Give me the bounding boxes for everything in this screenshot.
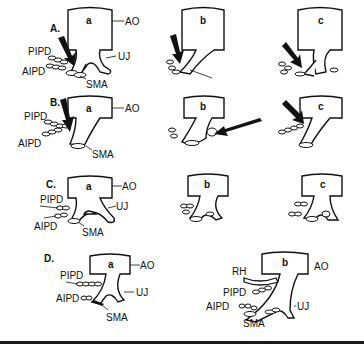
- row-c: C. a AO UJ PIPD AIPD SMA: [34, 174, 342, 238]
- panel-a-b: b: [167, 8, 225, 79]
- label-uj: UJ: [136, 287, 148, 298]
- aipd-vessel: [42, 128, 62, 136]
- label-sma: SMA: [82, 227, 104, 238]
- label-ao: AO: [125, 103, 140, 114]
- panel-id: b: [200, 101, 206, 112]
- pipd-vessel: [253, 286, 272, 294]
- anatomy-diagram: A. a AO UJ PIPD AIPD SMA: [0, 0, 364, 350]
- leader-line: [44, 216, 56, 218]
- side-vessel: [279, 124, 304, 134]
- label-pipd: PIPD: [40, 194, 63, 205]
- panel-id: c: [318, 101, 324, 112]
- row-b: B. a AO PIPD AIPD SMA b: [18, 96, 342, 160]
- label-uj: UJ: [116, 201, 128, 212]
- label-sma: SMA: [86, 79, 108, 90]
- sma-vessel: [71, 144, 85, 149]
- panel-b-b: b: [169, 96, 263, 146]
- panel-id: a: [108, 259, 114, 270]
- sma-vessel: [190, 217, 202, 222]
- label-aipd: AIPD: [22, 66, 45, 77]
- panel-id: b: [204, 179, 210, 190]
- label-aipd: AIPD: [34, 221, 57, 232]
- panel-d-a: a AO UJ PIPD AIPD SMA: [56, 254, 155, 323]
- leader-line: [40, 206, 58, 208]
- panel-a-a: a AO UJ PIPD AIPD SMA: [22, 8, 140, 91]
- row-a: A. a AO UJ PIPD AIPD SMA: [22, 8, 342, 91]
- label-aipd: AIPD: [206, 301, 229, 312]
- bottom-rule: [0, 341, 364, 344]
- label-rh: RH: [232, 266, 246, 277]
- panel-b-a: a AO PIPD AIPD SMA: [18, 96, 140, 160]
- leader-line: [102, 305, 108, 310]
- aipd-vessel: [81, 296, 92, 300]
- row-label-b: B.: [50, 97, 60, 108]
- label-uj: UJ: [297, 301, 309, 312]
- aipd-vessel: [46, 64, 66, 70]
- sma-vessel: [185, 141, 199, 146]
- label-aipd: AIPD: [56, 293, 79, 304]
- panel-id: a: [86, 181, 92, 192]
- label-pipd: PIPD: [60, 270, 83, 281]
- sma-vessel: [306, 217, 318, 222]
- pipd-vessel: [77, 282, 102, 286]
- leader-line: [106, 56, 116, 58]
- panel-id: a: [86, 103, 92, 114]
- panel-id: c: [320, 179, 326, 190]
- sma-vessel: [68, 219, 80, 224]
- row-label-a: A.: [50, 23, 60, 34]
- leader-line: [66, 282, 78, 284]
- panel-a-c: c: [279, 8, 343, 77]
- panel-c-c: c: [289, 174, 343, 222]
- row-label-d: D.: [44, 253, 54, 264]
- panel-c-b: b: [181, 174, 229, 222]
- panel-b-c: c: [279, 96, 343, 148]
- label-ao: AO: [122, 181, 137, 192]
- panel-id: b: [282, 257, 288, 268]
- row-d: D. a AO UJ PIPD AIPD SMA: [44, 252, 329, 329]
- aipd-vessel: [239, 304, 257, 310]
- vessel: [304, 60, 316, 76]
- leader-line: [108, 206, 116, 208]
- panel-id: a: [86, 15, 92, 26]
- pipd-vessel: [57, 206, 70, 210]
- aipd-vessel: [55, 213, 68, 218]
- panel-d-b: b AO RH PIPD UJ AIPD SMA: [206, 252, 329, 329]
- label-ao: AO: [125, 16, 140, 27]
- arrow-icon: [214, 118, 262, 136]
- label-sma: SMA: [243, 318, 265, 329]
- label-uj: UJ: [118, 51, 130, 62]
- vessel: [190, 70, 212, 78]
- row-label-c: C.: [46, 179, 56, 190]
- sma-vessel: [299, 143, 313, 148]
- pipd-vessel: [48, 56, 68, 64]
- label-sma: SMA: [106, 312, 128, 323]
- side-vessel: [167, 60, 181, 74]
- panel-id: b: [200, 15, 206, 26]
- rh-vessel: [244, 278, 278, 285]
- label-pipd: PIPD: [223, 287, 246, 298]
- label-ao: AO: [140, 260, 155, 271]
- label-sma: SMA: [92, 149, 114, 160]
- leader-line: [78, 222, 84, 226]
- label-pipd: PIPD: [24, 111, 47, 122]
- panel-id: c: [318, 15, 324, 26]
- label-aipd: AIPD: [18, 138, 41, 149]
- label-pipd: PIPD: [28, 46, 51, 57]
- label-ao: AO: [314, 261, 329, 272]
